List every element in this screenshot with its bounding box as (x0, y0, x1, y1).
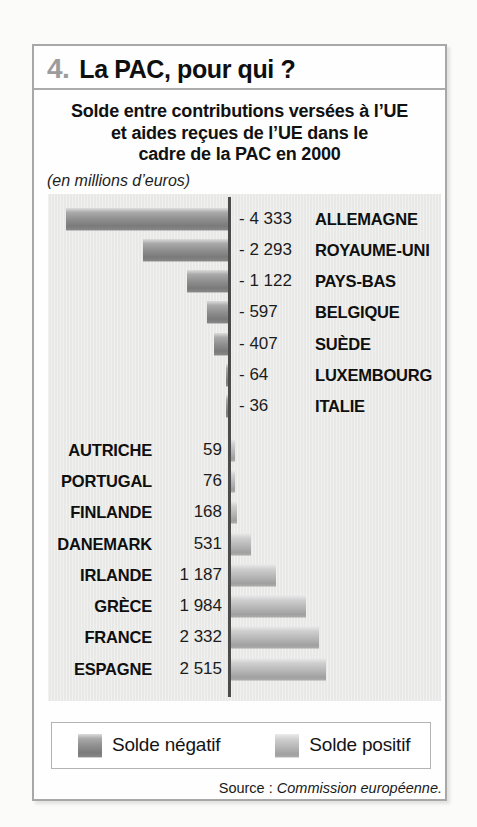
bar-row-grece: GRÈCE1 984 (48, 595, 441, 617)
country-label-pays-bas: PAYS-BAS (315, 270, 396, 292)
unit-note: (en millions d’euros) (47, 172, 445, 190)
chart-title-line-2: et aides reçues de l’UE dans le (34, 123, 445, 145)
figure-number: 4. (47, 53, 69, 85)
value-label-suede: - 407 (239, 333, 278, 355)
bar-row-espagne: ESPAGNE2 515 (48, 658, 441, 680)
value-label-portugal: 76 (48, 470, 222, 492)
figure-card: 4. La PAC, pour qui ? Solde entre contri… (32, 44, 447, 801)
value-label-autriche: 59 (48, 439, 222, 461)
country-label-italie: ITALIE (315, 395, 365, 417)
bar-pays-bas (187, 270, 229, 292)
country-label-belgique: BELGIQUE (315, 301, 400, 323)
bar-grece (231, 595, 306, 617)
chart-title-line-3: cadre de la PAC en 2000 (34, 144, 445, 166)
legend-item-negative: Solde négatif (78, 734, 220, 757)
chart-panel: - 4 333ALLEMAGNE- 2 293ROYAUME-UNI- 1 12… (48, 194, 441, 701)
figure-header: 4. La PAC, pour qui ? (34, 46, 445, 90)
legend-label-positive: Solde positif (309, 734, 410, 756)
page: { "header": { "number": "4.", "heading":… (0, 0, 477, 827)
value-label-royaume-uni: - 2 293 (239, 239, 292, 261)
source-line: Source : Commission européenne. (34, 780, 445, 796)
bar-allemagne (66, 208, 229, 230)
legend-label-negative: Solde négatif (112, 734, 220, 756)
value-label-espagne: 2 515 (48, 658, 222, 680)
legend-swatch-negative (78, 734, 102, 757)
country-label-suede: SUÈDE (315, 333, 371, 355)
figure-heading: La PAC, pour qui ? (79, 55, 295, 84)
legend-swatch-positive (275, 734, 299, 757)
chart-title-line-1: Solde entre contributions versées à l’UE (34, 101, 445, 123)
bar-row-belgique: - 597BELGIQUE (48, 301, 441, 323)
bar-finlande (231, 501, 237, 523)
value-label-grece: 1 984 (48, 595, 222, 617)
bar-row-suede: - 407SUÈDE (48, 333, 441, 355)
value-label-danemark: 531 (48, 533, 222, 555)
bar-royaume-uni (143, 239, 229, 261)
value-label-allemagne: - 4 333 (239, 208, 292, 230)
source-prefix: Source : (219, 780, 277, 796)
value-label-irlande: 1 187 (48, 564, 222, 586)
value-label-luxembourg: - 64 (239, 364, 268, 386)
bar-suede (214, 333, 229, 355)
bar-espagne (231, 658, 326, 680)
bar-row-allemagne: - 4 333ALLEMAGNE (48, 208, 441, 230)
bar-row-france: FRANCE2 332 (48, 626, 441, 648)
bar-irlande (231, 564, 276, 586)
value-label-belgique: - 597 (239, 301, 278, 323)
bar-row-finlande: FINLANDE168 (48, 501, 441, 523)
value-label-pays-bas: - 1 122 (239, 270, 292, 292)
country-label-royaume-uni: ROYAUME-UNI (315, 239, 430, 261)
source-text: Commission européenne. (277, 780, 442, 796)
bar-row-danemark: DANEMARK531 (48, 533, 441, 555)
country-label-luxembourg: LUXEMBOURG (315, 364, 432, 386)
bar-row-luxembourg: - 64LUXEMBOURG (48, 364, 441, 386)
legend: Solde négatifSolde positif (51, 722, 431, 769)
value-label-finlande: 168 (48, 501, 222, 523)
chart-title: Solde entre contributions versées à l’UE… (34, 101, 445, 166)
bar-row-pays-bas: - 1 122PAYS-BAS (48, 270, 441, 292)
value-label-france: 2 332 (48, 626, 222, 648)
bar-row-irlande: IRLANDE1 187 (48, 564, 441, 586)
bar-row-italie: - 36ITALIE (48, 395, 441, 417)
bar-portugal (231, 470, 235, 492)
bar-row-portugal: PORTUGAL76 (48, 470, 441, 492)
bar-belgique (207, 301, 229, 323)
zero-axis-line (228, 197, 231, 697)
bar-row-autriche: AUTRICHE59 (48, 439, 441, 461)
value-label-italie: - 36 (239, 395, 268, 417)
legend-item-positive: Solde positif (275, 734, 410, 757)
country-label-allemagne: ALLEMAGNE (315, 208, 418, 230)
bar-row-royaume-uni: - 2 293ROYAUME-UNI (48, 239, 441, 261)
bar-autriche (231, 439, 235, 461)
bar-danemark (231, 533, 251, 555)
bar-france (231, 626, 319, 648)
